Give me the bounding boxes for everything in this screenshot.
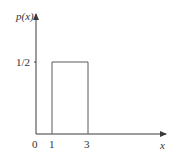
uniform-pdf-chart: p(x) 1/2 0 1 3 x bbox=[0, 0, 177, 158]
x-tick-label-3: 3 bbox=[84, 138, 90, 150]
y-axis-label: p(x) bbox=[15, 10, 34, 23]
y-tick-label-half: 1/2 bbox=[16, 56, 30, 68]
origin-label: 0 bbox=[32, 138, 38, 150]
density-rectangle bbox=[52, 62, 88, 134]
x-tick-label-1: 1 bbox=[49, 138, 55, 150]
x-axis-label: x bbox=[159, 139, 165, 151]
